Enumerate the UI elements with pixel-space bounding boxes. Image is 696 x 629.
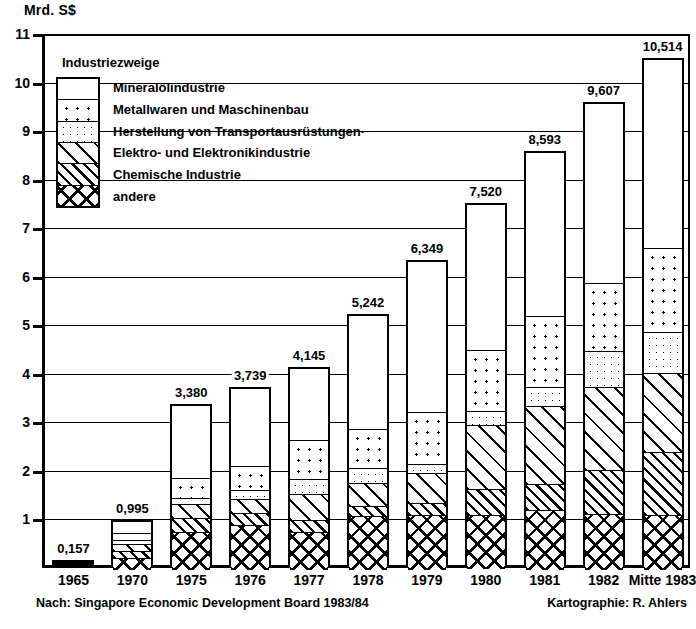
x-axis-label: Mitte 1983 (629, 572, 696, 588)
y-axis-tick-label: 9 (22, 123, 30, 139)
legend-label-chem: Chemische Industrie (113, 167, 241, 182)
x-axis-label: 1982 (588, 572, 619, 588)
bar-segment-chem (585, 470, 623, 514)
bar-segment-metall (526, 316, 564, 386)
y-axis-tick (33, 471, 42, 474)
y-axis-title: Mrd. S$ (24, 2, 76, 18)
bar-segment-transport (467, 411, 505, 425)
bar-segment-andere (585, 514, 623, 570)
y-axis-tick-label: 6 (22, 269, 30, 285)
bar-segment-andere (231, 525, 269, 570)
bar-segment-andere (408, 515, 446, 570)
x-axis-label: 1975 (176, 572, 207, 588)
bar-segment-metall (172, 478, 210, 498)
bar-segment-andere (113, 558, 151, 570)
bar-1982[interactable] (583, 102, 625, 568)
bar-value-label: 6,349 (409, 242, 446, 256)
x-axis-label: 1970 (117, 572, 148, 588)
bar-segment-elektro (526, 406, 564, 484)
bar-segment-mineral (54, 562, 92, 566)
bar-1981[interactable] (524, 151, 566, 568)
bar-1975[interactable] (170, 404, 212, 568)
bar-segment-elektro (290, 494, 328, 520)
bar-segment-transport (585, 351, 623, 387)
y-axis-tick (33, 34, 42, 37)
y-axis-tick (33, 325, 42, 328)
bar-Mitte-1983[interactable] (642, 58, 684, 568)
bar-segment-elektro (349, 483, 387, 506)
bar-value-label: 3,739 (232, 369, 269, 383)
y-axis-tick (33, 180, 42, 183)
bar-segment-elektro (113, 544, 151, 551)
legend-swatch-elektro (58, 142, 98, 163)
y-axis-tick-label: 10 (14, 75, 30, 91)
legend-swatch-transport (58, 121, 98, 142)
bar-segment-elektro (585, 387, 623, 470)
y-axis-tick-label: 8 (22, 172, 30, 188)
bar-segment-elektro (231, 499, 269, 514)
legend-title: Industriezweige (62, 55, 160, 70)
bar-segment-metall (408, 412, 446, 464)
bar-segment-transport (349, 468, 387, 483)
bar-segment-mineral (349, 316, 387, 430)
bar-segment-metall (644, 248, 682, 332)
legend-label-metall: Metallwaren und Maschinenbau (113, 102, 309, 117)
y-axis-tick (33, 277, 42, 280)
bar-segment-transport (290, 479, 328, 494)
x-axis-label: 1965 (58, 572, 89, 588)
legend-swatch-stack (56, 77, 100, 208)
y-axis-tick-label: 5 (22, 317, 30, 333)
bar-segment-chem (644, 452, 682, 515)
bar-segment-metall (113, 533, 151, 540)
bar-value-label: 8,593 (526, 133, 563, 147)
bar-segment-transport (408, 464, 446, 473)
y-axis-tick-label: 3 (22, 414, 30, 430)
y-axis-tick-label: 11 (15, 26, 30, 42)
x-axis-label: 1978 (352, 572, 383, 588)
y-axis-tick (33, 519, 42, 522)
bar-segment-mineral (644, 60, 682, 249)
bar-value-label: 9,607 (585, 84, 622, 98)
bar-value-label: 0,157 (55, 542, 92, 556)
bar-segment-andere (349, 516, 387, 570)
bar-value-label: 0,995 (114, 502, 151, 516)
bar-1965[interactable] (52, 560, 94, 568)
x-axis-label: 1977 (294, 572, 325, 588)
bar-segment-chem (172, 518, 210, 533)
legend-swatch-chem (58, 163, 98, 184)
x-axis-label: 1981 (529, 572, 560, 588)
y-axis-tick (33, 374, 42, 377)
y-axis-tick-label: 4 (22, 366, 30, 382)
bar-1976[interactable] (229, 387, 271, 569)
bar-1979[interactable] (406, 260, 448, 568)
bar-segment-metall (290, 440, 328, 479)
legend-swatch-mineral (58, 79, 98, 99)
bar-segment-transport (644, 332, 682, 373)
bar-segment-andere (526, 510, 564, 570)
bar-segment-chem (349, 506, 387, 516)
y-axis-tick-label: 2 (22, 463, 30, 479)
bar-value-label: 4,145 (291, 349, 328, 363)
legend-label-transport: Herstellung von Transportausrüstungen· (113, 124, 365, 139)
bar-segment-andere (290, 532, 328, 570)
bar-segment-elektro (644, 373, 682, 452)
cartography-footnote: Kartographie: R. Ahlers (547, 596, 687, 610)
bar-segment-elektro (172, 504, 210, 518)
bar-segment-mineral (172, 406, 210, 478)
bar-segment-mineral (290, 369, 328, 440)
y-axis-tick (33, 422, 42, 425)
legend-label-andere: andere (113, 189, 156, 204)
bar-segment-chem (526, 484, 564, 509)
source-footnote: Nach: Singapore Economic Development Boa… (36, 596, 369, 610)
bar-segment-mineral (526, 153, 564, 317)
y-axis-tick-label: 7 (22, 220, 30, 236)
bar-segment-andere (467, 515, 505, 570)
bar-segment-mineral (113, 522, 151, 533)
bar-1978[interactable] (347, 314, 389, 568)
bar-1977[interactable] (288, 367, 330, 568)
bar-segment-elektro (467, 425, 505, 489)
bar-1970[interactable] (111, 520, 153, 568)
bar-1980[interactable] (465, 203, 507, 568)
bar-segment-chem (408, 503, 446, 515)
